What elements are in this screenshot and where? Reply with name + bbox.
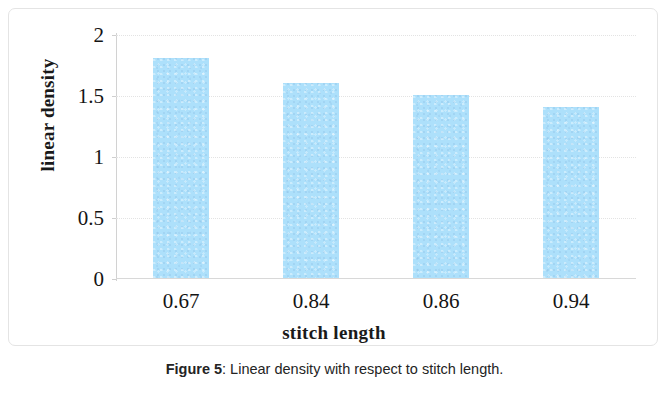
figure-caption-label: Figure 5: [166, 361, 222, 377]
figure-caption: Figure 5: Linear density with respect to…: [0, 361, 669, 377]
x-tick-label: 0.86: [423, 289, 460, 314]
x-axis-title: stitch length: [9, 322, 659, 344]
y-tick-mark: [112, 279, 116, 280]
plot-area: 00.511.52 0.670.840.860.94: [116, 35, 636, 279]
y-axis-title: linear density: [37, 30, 59, 200]
x-tick-label: 0.94: [553, 289, 590, 314]
y-tick-mark: [112, 157, 116, 158]
bar: [543, 107, 599, 278]
figure-container: linear density 00.511.52 0.670.840.860.9…: [0, 0, 669, 393]
y-tick-label: 1: [94, 145, 105, 170]
x-axis-line: [116, 278, 636, 279]
figure-caption-separator: :: [222, 361, 226, 377]
figure-caption-text: Linear density with respect to stitch le…: [230, 361, 503, 377]
y-tick-label: 0: [94, 267, 105, 292]
y-tick-label: 2: [94, 23, 105, 48]
y-tick-label: 1.5: [78, 84, 104, 109]
y-tick-mark: [112, 35, 116, 36]
y-tick-label: 0.5: [78, 206, 104, 231]
gridline: [116, 35, 636, 37]
x-tick-label: 0.67: [163, 289, 200, 314]
x-tick-label: 0.84: [293, 289, 330, 314]
bar: [153, 58, 209, 278]
bar: [413, 95, 469, 278]
bar: [283, 83, 339, 278]
chart-frame: linear density 00.511.52 0.670.840.860.9…: [8, 8, 658, 346]
y-tick-mark: [112, 96, 116, 97]
y-tick-mark: [112, 218, 116, 219]
